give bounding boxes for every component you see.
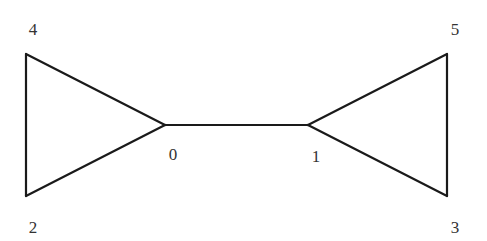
node-label-1: 1: [312, 147, 321, 166]
edge-1-3: [308, 125, 447, 196]
node-label-0: 0: [169, 145, 178, 164]
edge-2-0: [26, 125, 165, 196]
labels-group: 012345: [29, 20, 460, 237]
edge-1-5: [308, 54, 447, 125]
node-label-5: 5: [451, 20, 460, 39]
node-label-3: 3: [451, 218, 460, 237]
node-label-4: 4: [29, 20, 38, 39]
edges-group: [26, 54, 447, 196]
graph-diagram: 012345: [0, 0, 487, 241]
edge-4-0: [26, 54, 165, 125]
node-label-2: 2: [29, 218, 38, 237]
